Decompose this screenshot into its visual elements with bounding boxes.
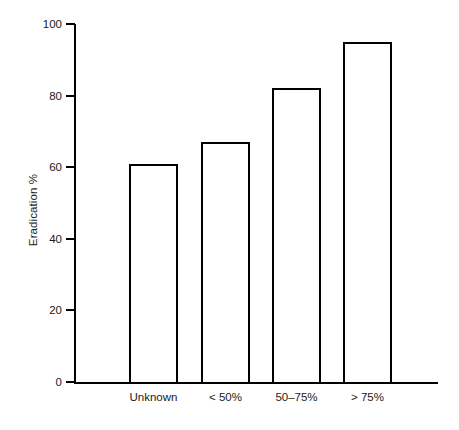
y-tick-mark xyxy=(66,166,75,168)
y-tick-label: 0 xyxy=(28,376,62,388)
y-tick-label: 60 xyxy=(28,161,62,173)
y-tick-label: 40 xyxy=(28,233,62,245)
y-tick-mark xyxy=(66,238,75,240)
y-tick-label: 80 xyxy=(28,90,62,102)
y-tick-mark xyxy=(66,95,75,97)
y-tick-label: 100 xyxy=(28,18,62,30)
bar-chart: Eradication % 020406080100 Unknown< 50%5… xyxy=(0,0,459,430)
bar xyxy=(343,42,392,384)
y-axis-line xyxy=(74,24,76,384)
bar xyxy=(129,164,178,384)
y-tick-mark xyxy=(66,381,75,383)
y-tick-mark xyxy=(66,309,75,311)
bar xyxy=(272,88,321,384)
bar xyxy=(201,142,250,384)
y-tick-label: 20 xyxy=(28,304,62,316)
y-tick-mark xyxy=(66,23,75,25)
x-tick-label: > 75% xyxy=(318,391,418,403)
